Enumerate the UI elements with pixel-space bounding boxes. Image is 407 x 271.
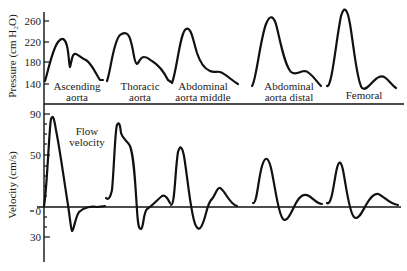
velocity-trace-thoracic-aorta <box>106 123 170 229</box>
velocity-tick-label: 30 <box>30 231 42 243</box>
velocity-panel: 90 50 0 30 Velocity (cm/s) Flow velocity <box>6 104 401 262</box>
segment-label: aorta distal <box>265 91 314 103</box>
pressure-trace-abdominal-aorta-middle <box>172 29 238 84</box>
pressure-trace-thoracic-aorta <box>107 33 171 82</box>
pressure-tick-label: 140 <box>25 78 42 90</box>
pressure-tick-label: 260 <box>25 15 42 27</box>
velocity-trace-abdominal-aorta-distal <box>253 159 322 220</box>
velocity-tick-label: 50 <box>30 149 42 161</box>
pressure-trace-femoral <box>327 10 396 89</box>
hemodynamics-figure: 260 220 180 140 Pressure (cm H₂O) Ascend… <box>0 0 407 271</box>
velocity-tick-label: 90 <box>30 108 42 120</box>
pressure-trace-ascending-aorta <box>45 39 103 81</box>
pressure-tick-label: 180 <box>25 56 42 68</box>
segment-label: aorta <box>129 91 151 103</box>
flow-velocity-annotation: velocity <box>69 136 105 148</box>
velocity-axis-title: Velocity (cm/s) <box>6 151 19 219</box>
pressure-panel: 260 220 180 140 Pressure (cm H₂O) Ascend… <box>6 10 404 104</box>
pressure-tick-label: 220 <box>25 36 42 48</box>
segment-label: aorta middle <box>175 91 230 103</box>
velocity-trace-abdominal-aorta-middle <box>171 147 237 228</box>
velocity-trace-femoral <box>327 163 398 218</box>
pressure-axis-title: Pressure (cm H₂O) <box>6 14 19 98</box>
segment-label: aorta <box>66 91 88 103</box>
pressure-trace-abdominal-aorta-distal <box>252 17 321 86</box>
segment-label: Femoral <box>346 89 383 101</box>
